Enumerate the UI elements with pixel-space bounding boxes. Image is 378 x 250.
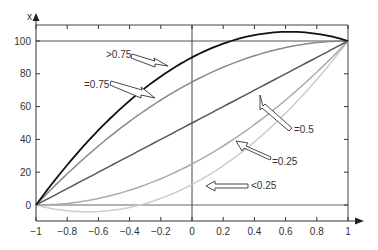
annotation-label: =0.5	[294, 124, 314, 135]
y-tick-label: 80	[20, 68, 32, 79]
x-tick-label: −0.6	[89, 226, 109, 237]
annotation-gt075: >0.75	[106, 49, 168, 67]
arrow-icon	[260, 95, 292, 131]
x-tick-label: −0.8	[57, 226, 77, 237]
arrow-icon	[206, 181, 248, 191]
chart: x −1−0.8−0.6−0.4−0.200.20.40.60.81020406…	[0, 0, 378, 250]
arrow-icon	[110, 81, 155, 98]
annotation-eq025: =0.25	[236, 141, 298, 167]
annotation-label: <0.25	[251, 180, 277, 191]
annotation-lt025: <0.25	[206, 180, 277, 191]
annotation-label: =0.25	[272, 156, 298, 167]
x-tick-label: 0	[189, 226, 195, 237]
x-tick-label: 0.4	[247, 226, 261, 237]
y-tick-label: 0	[25, 200, 31, 211]
x-axis	[36, 218, 364, 225]
annotation-label: =0.75	[84, 79, 110, 90]
y-tick-label: 60	[20, 101, 32, 112]
x-axis-arrow-icon	[355, 218, 364, 225]
y-tick-label: 100	[14, 36, 31, 47]
y-axis-arrow-icon	[33, 13, 40, 21]
x-tick-label: 0.6	[279, 226, 293, 237]
x-tick-label: −1	[30, 226, 42, 237]
x-tick-label: 0.2	[216, 226, 230, 237]
y-tick-label: 40	[20, 134, 32, 145]
x-tick-label: 1	[345, 226, 351, 237]
y-axis-label: x	[27, 11, 32, 22]
x-tick-label: 0.8	[310, 226, 324, 237]
arrow-icon	[131, 54, 168, 67]
x-tick-label: −0.4	[120, 226, 140, 237]
y-tick-label: 20	[20, 167, 32, 178]
annotation-label: >0.75	[106, 49, 132, 60]
arrow-icon	[236, 141, 271, 160]
x-tick-label: −0.2	[151, 226, 171, 237]
